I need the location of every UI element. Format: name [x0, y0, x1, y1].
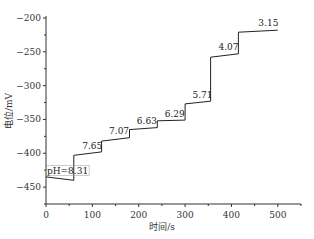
y-tick-label: −300: [16, 81, 41, 91]
ph-label: 5.71: [193, 90, 213, 100]
ticks: 0100200300400500−200−250−300−350−400−450: [16, 13, 301, 220]
data-series: [46, 30, 278, 180]
y-axis-title: 电位/mV: [3, 92, 14, 129]
x-tick-label: 200: [130, 210, 147, 220]
ph-annotations: pH=8.317.657.076.636.295.714.073.15: [46, 18, 279, 175]
ph-label: 7.65: [82, 141, 102, 151]
x-tick-label: 100: [84, 210, 101, 220]
y-tick-label: −250: [16, 47, 41, 57]
ph-label: 4.07: [218, 42, 238, 52]
y-tick-label: −400: [16, 148, 41, 158]
x-tick-label: 400: [223, 210, 240, 220]
y-tick-label: −450: [16, 182, 41, 192]
ph-label: pH=8.31: [47, 166, 88, 176]
x-axis-title: 时间/s: [149, 221, 175, 232]
y-tick-label: −350: [16, 114, 41, 124]
y-tick-label: −200: [16, 13, 41, 23]
x-tick-label: 0: [43, 210, 49, 220]
ph-label: 7.07: [109, 126, 129, 136]
x-tick-label: 300: [176, 210, 193, 220]
potential-line: [46, 30, 278, 180]
ph-label: 6.29: [165, 109, 185, 119]
ph-label: 6.63: [137, 116, 157, 126]
ph-label: 3.15: [258, 18, 278, 28]
x-tick-label: 500: [269, 210, 286, 220]
potential-time-chart: 0100200300400500−200−250−300−350−400−450…: [0, 0, 314, 239]
